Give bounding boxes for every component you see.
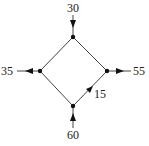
edge-top-left [40, 37, 73, 71]
flow-diagram: 30 35 55 60 15 [0, 0, 149, 146]
label-right-out: 55 [133, 64, 145, 78]
label-edge-15: 15 [94, 87, 106, 101]
edge-left-bottom [40, 71, 73, 106]
arrow-up-icon [70, 113, 76, 121]
arrow-down-icon [70, 20, 76, 28]
node-bottom [71, 104, 75, 108]
label-top-in: 30 [67, 1, 79, 15]
node-top [71, 35, 75, 39]
arrow-right-icon [116, 68, 124, 74]
label-bottom-in: 60 [67, 128, 79, 142]
arrow-left-icon [25, 68, 33, 74]
edge-top-right [73, 37, 107, 71]
node-right [105, 69, 109, 73]
node-left [38, 69, 42, 73]
label-left-out: 35 [1, 64, 13, 78]
